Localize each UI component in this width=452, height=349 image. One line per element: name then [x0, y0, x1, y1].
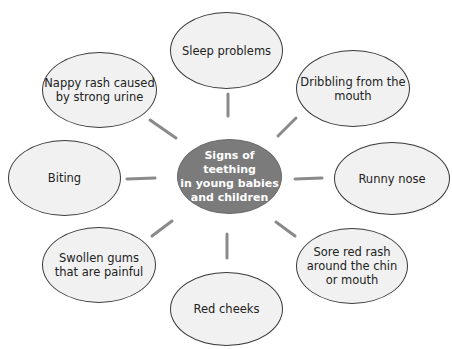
node-sore-red-rash: Sore red rash around the chin or mouth	[296, 228, 408, 304]
node-runny-nose: Runny nose	[334, 142, 450, 215]
node-label: Sleep problems	[182, 44, 271, 58]
node-nappy-rash: Nappy rash caused by strong urine	[42, 52, 157, 128]
connector-biting	[127, 178, 155, 179]
node-red-cheeks: Red cheeks	[170, 272, 283, 346]
connector-dribbling	[278, 118, 296, 136]
node-label: Dribbling from the mouth	[300, 75, 405, 103]
node-biting: Biting	[8, 140, 121, 216]
node-dribbling: Dribbling from the mouth	[296, 50, 410, 127]
node-label: Biting	[48, 171, 81, 185]
connector-nappy-rash	[150, 120, 176, 138]
node-label: Swollen gums that are painful	[55, 251, 144, 279]
node-label: Red cheeks	[194, 302, 260, 316]
connector-runny-nose	[295, 178, 322, 179]
center-node-label: Signs of teething in young babies and ch…	[178, 149, 281, 205]
connector-swollen-gums	[152, 221, 172, 236]
node-sleep-problems: Sleep problems	[170, 12, 283, 89]
node-label: Sore red rash around the chin or mouth	[307, 245, 398, 287]
node-label: Runny nose	[358, 172, 425, 186]
node-label: Nappy rash caused by strong urine	[44, 76, 154, 104]
node-swollen-gums: Swollen gums that are painful	[42, 227, 156, 303]
center-node: Signs of teething in young babies and ch…	[177, 139, 282, 214]
connector-sore-rash	[276, 222, 295, 236]
